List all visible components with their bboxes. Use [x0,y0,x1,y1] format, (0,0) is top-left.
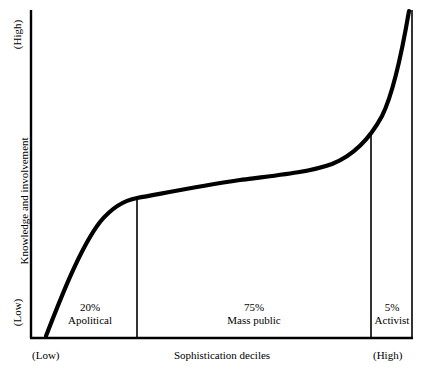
y-axis-low-label: (Low) [11,290,24,336]
x-axis-high-label: (High) [373,349,402,362]
segment-label-activist: 5% Activist [370,301,414,327]
x-axis-low-label: (Low) [32,349,60,362]
segment-name-activist: Activist [370,314,414,327]
chart-figure: (High) Knowledge and involvement (Low) (… [0,0,432,374]
y-axis-high-label: (High) [11,12,24,58]
segment-name-apolitical: Apolitical [44,314,136,327]
segment-percent-apolitical: 20% [44,301,136,314]
segment-label-apolitical: 20% Apolitical [44,301,136,327]
x-axis-title: Sophistication deciles [142,349,302,362]
segment-label-mass-public: 75% Mass public [138,301,370,327]
segment-percent-activist: 5% [370,301,414,314]
knowledge-involvement-curve [46,11,409,336]
segment-percent-mass-public: 75% [138,301,370,314]
y-axis-title: Knowledge and involvement [18,141,31,265]
segment-name-mass-public: Mass public [138,314,370,327]
